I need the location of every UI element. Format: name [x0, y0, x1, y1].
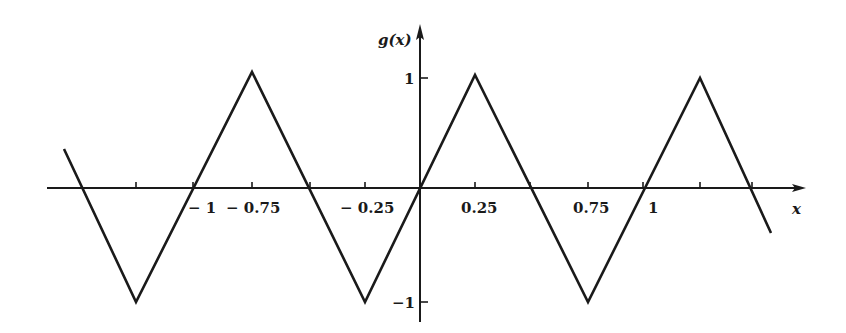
x-tick-label: 0.75	[573, 199, 610, 217]
x-tick-label: − 0.25	[340, 199, 394, 217]
y-ticks	[420, 78, 428, 302]
y-tick-label: 1	[404, 70, 414, 88]
x-tick-label: 0.25	[461, 199, 498, 217]
x-tick-label: − 0.75	[226, 199, 280, 217]
x-axis-label: x	[791, 200, 802, 218]
x-tick-label: 1	[648, 199, 658, 217]
y-tick-label: −1	[392, 294, 415, 312]
chart-canvas: − 1 − 0.75 − 0.25 0.25 0.75 1 1 −1 g(x) …	[0, 0, 846, 333]
x-tick-label: − 1	[188, 199, 216, 217]
y-axis-label: g(x)	[378, 31, 412, 49]
